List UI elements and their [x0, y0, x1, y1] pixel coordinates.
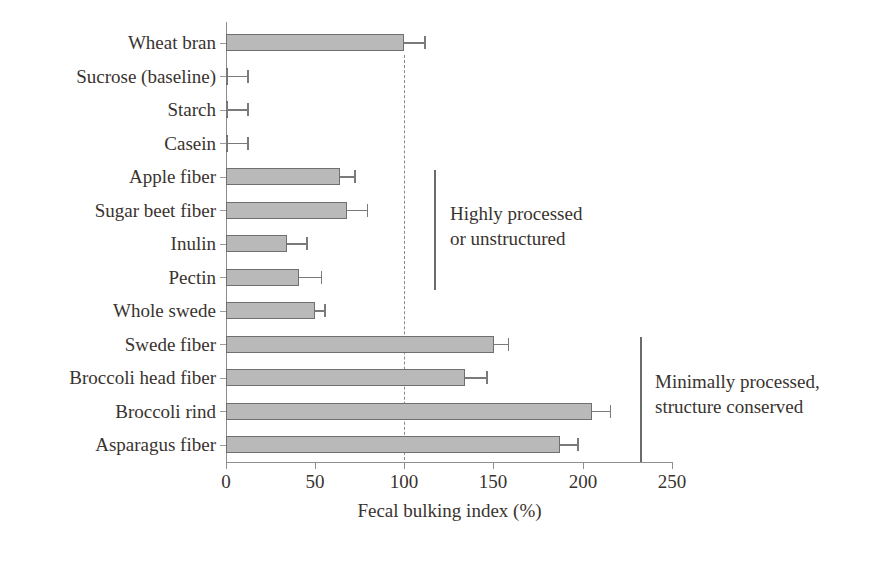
x-tick-50 — [315, 462, 316, 469]
group-annotation-minimally-processed: Minimally processed, structure conserved — [655, 369, 820, 419]
bar — [226, 269, 299, 286]
error-bar-cap — [508, 338, 510, 351]
category-label: Inulin — [171, 227, 216, 261]
error-bar — [228, 143, 248, 145]
category-label: Broccoli rind — [115, 395, 216, 429]
x-tick-200 — [583, 462, 584, 469]
category-label: Whole swede — [113, 294, 216, 328]
category-label: Swede fiber — [125, 328, 216, 362]
x-axis-line — [226, 462, 673, 463]
x-axis-title: Fecal bulking index (%) — [226, 500, 673, 522]
error-bar — [340, 176, 354, 178]
bar-row — [226, 361, 672, 395]
error-bar-cap — [424, 36, 426, 49]
error-bar-cap — [486, 371, 488, 384]
bar — [226, 34, 404, 51]
category-axis-labels: Wheat bran Sucrose (baseline) Starch Cas… — [0, 26, 216, 462]
bar-row — [226, 227, 672, 261]
bar — [226, 168, 340, 185]
annotation-line-2: or unstructured — [450, 226, 582, 251]
bar — [226, 403, 592, 420]
error-bar — [592, 411, 610, 413]
bar-row — [226, 160, 672, 194]
error-bar — [347, 210, 367, 212]
error-bar-cap — [367, 204, 369, 217]
error-bar-cap — [306, 237, 308, 250]
error-bar-cap — [247, 103, 249, 116]
bar — [226, 369, 465, 386]
error-bar-cap — [324, 304, 326, 317]
category-label: Apple fiber — [129, 160, 216, 194]
category-label: Sugar beet fiber — [95, 194, 216, 228]
x-tick-label: 100 — [390, 471, 419, 493]
bar-row — [226, 60, 672, 94]
error-bar — [404, 42, 424, 44]
fecal-bulking-index-chart: Wheat bran Sucrose (baseline) Starch Cas… — [0, 0, 888, 564]
bar — [226, 235, 287, 252]
bar-row — [226, 261, 672, 295]
x-tick-label: 0 — [221, 471, 231, 493]
plot-area — [226, 26, 672, 462]
bar-row — [226, 93, 672, 127]
annotation-line-2: structure conserved — [655, 394, 820, 419]
category-label: Pectin — [169, 261, 217, 295]
category-label: Casein — [164, 127, 216, 161]
error-bar — [560, 444, 578, 446]
error-bar-cap — [226, 137, 228, 150]
error-bar-cap — [610, 405, 612, 418]
x-tick-label: 200 — [569, 471, 598, 493]
group-bracket-highly-processed — [434, 170, 436, 290]
error-bar — [228, 109, 248, 111]
annotation-line-1: Highly processed — [450, 201, 582, 226]
bar-row — [226, 395, 672, 429]
x-tick-label: 150 — [479, 471, 508, 493]
bar-row — [226, 26, 672, 60]
error-bar-cap — [577, 438, 579, 451]
bar-row — [226, 127, 672, 161]
group-annotation-highly-processed: Highly processed or unstructured — [450, 201, 582, 251]
category-label: Starch — [167, 93, 216, 127]
category-label: Asparagus fiber — [95, 428, 216, 462]
bar-row — [226, 328, 672, 362]
error-bar-cap — [247, 70, 249, 83]
category-label: Wheat bran — [128, 26, 216, 60]
x-tick-250 — [672, 462, 673, 469]
bar-row — [226, 294, 672, 328]
error-bar — [465, 377, 486, 379]
bar — [226, 302, 315, 319]
error-bar — [287, 243, 307, 245]
error-bar — [228, 76, 248, 78]
category-label: Sucrose (baseline) — [76, 60, 216, 94]
x-tick-label: 50 — [306, 471, 325, 493]
error-bar-cap — [226, 70, 228, 83]
error-bar — [315, 310, 324, 312]
group-bracket-minimally-processed — [640, 337, 642, 462]
x-tick-label: 250 — [658, 471, 687, 493]
bar-row — [226, 428, 672, 462]
annotation-line-1: Minimally processed, — [655, 369, 820, 394]
error-bar-cap — [354, 170, 356, 183]
bar-row — [226, 194, 672, 228]
x-tick-0 — [226, 462, 227, 469]
bar — [226, 336, 494, 353]
x-tick-150 — [493, 462, 494, 469]
error-bar — [299, 277, 320, 279]
error-bar-cap — [226, 103, 228, 116]
error-bar-cap — [321, 271, 323, 284]
bar — [226, 436, 560, 453]
bar — [226, 202, 347, 219]
error-bar — [494, 344, 508, 346]
category-label: Broccoli head fiber — [69, 361, 216, 395]
error-bar-cap — [247, 137, 249, 150]
